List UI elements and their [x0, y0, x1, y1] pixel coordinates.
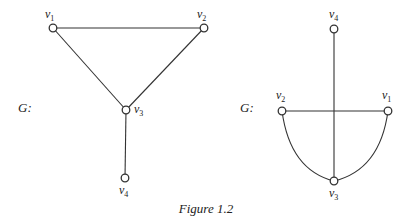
figure: v1 v2 v3 v4 G: v4 v2 v1 v3 G: Figure 1.2 [0, 0, 412, 218]
node-v2 [200, 24, 208, 32]
graph-name-left: G: [18, 100, 32, 115]
label-v4: v4 [329, 7, 338, 23]
label-v2: v2 [197, 7, 206, 23]
graph-drawing: v1 v2 v3 v4 G: v4 v2 v1 v3 G: Figure 1.2 [0, 0, 412, 218]
edge-v2-v3 [282, 111, 334, 181]
label-v4: v4 [119, 183, 128, 199]
edge-v1-v3 [53, 28, 126, 110]
node-v4 [330, 25, 338, 33]
label-v3: v3 [134, 102, 143, 118]
graph-name-right: G: [240, 100, 254, 115]
edge-v3-v4 [125, 110, 126, 178]
graph-left: v1 v2 v3 v4 G: [18, 7, 208, 199]
graph-right: v4 v2 v1 v3 G: [240, 7, 392, 202]
label-v1: v1 [45, 7, 54, 23]
node-v1 [49, 24, 57, 32]
label-v1: v1 [382, 88, 391, 104]
figure-caption: Figure 1.2 [178, 201, 234, 216]
node-v1 [384, 107, 392, 115]
label-v2: v2 [276, 88, 285, 104]
node-v2 [278, 107, 286, 115]
edge-v1-v3 [334, 111, 388, 181]
node-v3 [122, 106, 130, 114]
edge-v2-v3 [126, 28, 204, 110]
node-v4 [121, 174, 129, 182]
label-v3: v3 [329, 186, 338, 202]
node-v3 [330, 177, 338, 185]
